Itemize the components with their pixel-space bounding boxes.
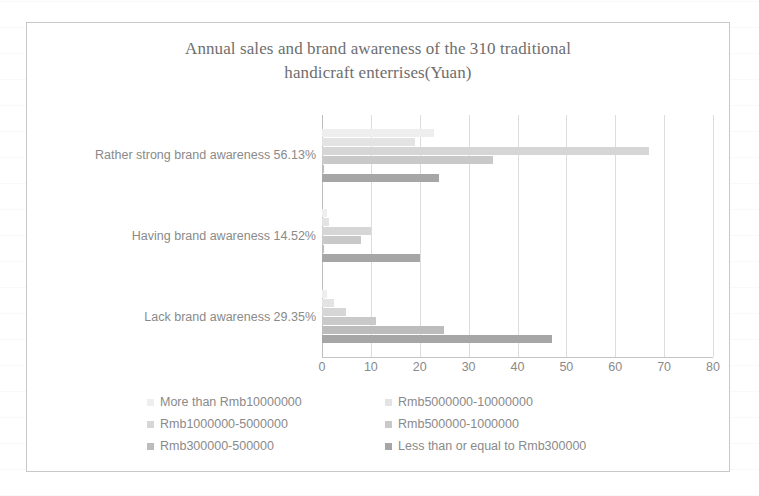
bar-group: Rather strong brand awareness 56.13% — [322, 115, 713, 196]
category-label: Rather strong brand awareness 56.13% — [95, 148, 316, 162]
bar[interactable] — [322, 290, 327, 298]
bar[interactable] — [322, 227, 371, 235]
legend-item[interactable]: Less than or equal to Rmb300000 — [385, 439, 647, 453]
bar-row — [322, 155, 713, 164]
x-tick-label: 30 — [462, 360, 476, 374]
legend-swatch — [385, 399, 392, 406]
bar[interactable] — [322, 299, 334, 307]
bar-row — [322, 290, 713, 299]
legend-swatch — [385, 421, 392, 428]
legend-item[interactable]: Rmb500000-1000000 — [385, 417, 647, 431]
bar[interactable] — [322, 218, 329, 226]
gridline — [713, 115, 714, 357]
bar[interactable] — [322, 174, 439, 182]
legend-label: More than Rmb10000000 — [160, 395, 302, 409]
bar-row — [322, 254, 713, 263]
category-label: Having brand awareness 14.52% — [132, 229, 316, 243]
legend-label: Rmb1000000-5000000 — [160, 417, 288, 431]
bar-row — [322, 299, 713, 308]
bar[interactable] — [322, 308, 346, 316]
legend-swatch — [147, 399, 154, 406]
legend-item[interactable]: Rmb300000-500000 — [147, 439, 385, 453]
bar[interactable] — [322, 156, 493, 164]
bar-row — [322, 209, 713, 218]
x-tick-label: 70 — [657, 360, 671, 374]
bar[interactable] — [322, 254, 420, 262]
legend-label: Rmb500000-1000000 — [398, 417, 519, 431]
x-tick-label: 40 — [511, 360, 525, 374]
bar-group: Having brand awareness 14.52% — [322, 196, 713, 277]
bar-row — [322, 335, 713, 344]
chart-title-line-1: Annual sales and brand awareness of the … — [27, 37, 729, 61]
legend-label: Rmb300000-500000 — [160, 439, 274, 453]
bar[interactable] — [322, 317, 376, 325]
bar[interactable] — [322, 245, 324, 253]
chart-legend: More than Rmb10000000Rmb5000000-10000000… — [147, 391, 647, 457]
x-tick-label: 80 — [706, 360, 720, 374]
legend-label: Rmb5000000-10000000 — [398, 395, 533, 409]
x-tick-label: 20 — [413, 360, 427, 374]
x-tick-label: 0 — [319, 360, 326, 374]
bar[interactable] — [322, 335, 552, 343]
bar-row — [322, 128, 713, 137]
bar[interactable] — [322, 236, 361, 244]
plot-area: Rather strong brand awareness 56.13%Havi… — [322, 115, 713, 357]
bar-row — [322, 164, 713, 173]
bar-row — [322, 236, 713, 245]
bar-group: Lack brand awareness 29.35% — [322, 276, 713, 357]
legend-swatch — [147, 443, 154, 450]
bar[interactable] — [322, 165, 324, 173]
bar-row — [322, 245, 713, 254]
legend-swatch — [385, 443, 392, 450]
legend-label: Less than or equal to Rmb300000 — [398, 439, 586, 453]
bar[interactable] — [322, 138, 415, 146]
x-axis-tick-labels: 01020304050607080 — [322, 360, 713, 378]
bar-groups: Rather strong brand awareness 56.13%Havi… — [322, 115, 713, 357]
bar-row — [322, 308, 713, 317]
x-tick-label: 50 — [559, 360, 573, 374]
x-tick-label: 60 — [608, 360, 622, 374]
legend-swatch — [147, 421, 154, 428]
legend-item[interactable]: Rmb5000000-10000000 — [385, 395, 647, 409]
bar-row — [322, 137, 713, 146]
bar[interactable] — [322, 209, 327, 217]
chart-frame: Annual sales and brand awareness of the … — [26, 22, 730, 472]
legend-item[interactable]: Rmb1000000-5000000 — [147, 417, 385, 431]
x-tick-label: 10 — [364, 360, 378, 374]
bar-row — [322, 146, 713, 155]
bar[interactable] — [322, 129, 434, 137]
x-axis-line — [322, 357, 713, 358]
bar[interactable] — [322, 326, 444, 334]
chart-title: Annual sales and brand awareness of the … — [27, 37, 729, 85]
category-label: Lack brand awareness 29.35% — [144, 310, 316, 324]
bar-row — [322, 218, 713, 227]
bar-row — [322, 227, 713, 236]
bar-row — [322, 317, 713, 326]
chart-title-line-2: handicraft enterrises(Yuan) — [27, 61, 729, 85]
bar[interactable] — [322, 147, 649, 155]
bar-row — [322, 326, 713, 335]
bar-row — [322, 173, 713, 182]
legend-item[interactable]: More than Rmb10000000 — [147, 395, 385, 409]
